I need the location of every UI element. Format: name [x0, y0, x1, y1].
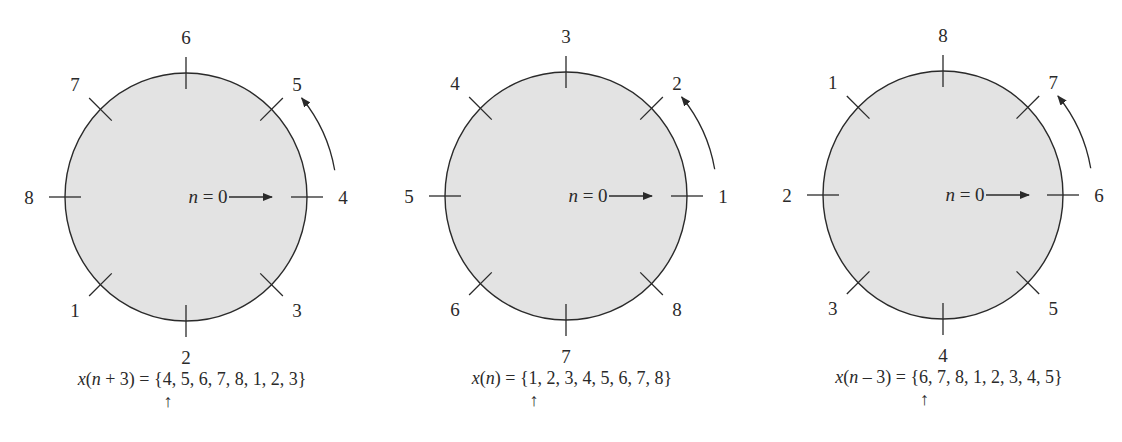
- rotation-arrow-icon: [1058, 96, 1091, 168]
- position-label: 4: [938, 345, 948, 366]
- circle-diagram-original: 12345678n = 0x(n) = {1, 2, 3, 4, 5, 6, 7…: [404, 26, 728, 410]
- circular-shift-diagram: 45678123n = 0x(n + 3) = {4, 5, 6, 7, 8, …: [0, 0, 1122, 442]
- position-label: 2: [672, 73, 682, 94]
- position-label: 6: [1094, 185, 1104, 206]
- position-label: 3: [828, 298, 838, 319]
- position-label: 4: [450, 73, 460, 94]
- position-label: 2: [181, 347, 191, 368]
- pointer-up-arrow-icon: ↑: [529, 390, 538, 410]
- sequence-equation: x(n + 3) = {4, 5, 6, 7, 8, 1, 2, 3}: [77, 369, 307, 390]
- position-label: 8: [938, 25, 948, 46]
- rotation-arrow-icon: [302, 98, 335, 170]
- position-label: 6: [450, 299, 460, 320]
- position-label: 6: [181, 27, 191, 48]
- n-zero-label: n = 0: [188, 186, 227, 207]
- position-label: 1: [828, 72, 838, 93]
- position-label: 1: [718, 186, 728, 207]
- n-zero-label: n = 0: [568, 185, 607, 206]
- position-label: 3: [292, 300, 302, 321]
- sequence-equation: x(n – 3) = {6, 7, 8, 1, 2, 3, 4, 5}: [834, 367, 1062, 388]
- n-zero-label: n = 0: [945, 184, 984, 205]
- position-label: 5: [292, 74, 302, 95]
- position-label: 1: [70, 300, 80, 321]
- position-label: 2: [782, 185, 792, 206]
- position-label: 7: [70, 74, 80, 95]
- circle-diagram-shift-plus-3: 45678123n = 0x(n + 3) = {4, 5, 6, 7, 8, …: [24, 27, 348, 411]
- position-label: 8: [672, 299, 682, 320]
- sequence-values: {6, 7, 8, 1, 2, 3, 4, 5}: [910, 367, 1062, 387]
- pointer-up-arrow-icon: ↑: [164, 391, 173, 411]
- rotation-arrow-icon: [682, 97, 715, 169]
- position-label: 7: [561, 346, 571, 367]
- position-label: 4: [338, 187, 348, 208]
- pointer-up-arrow-icon: ↑: [920, 389, 929, 409]
- position-label: 5: [1049, 298, 1059, 319]
- position-label: 3: [561, 26, 571, 47]
- position-label: 5: [404, 186, 414, 207]
- sequence-equation: x(n) = {1, 2, 3, 4, 5, 6, 7, 8}: [471, 368, 672, 389]
- position-label: 7: [1049, 72, 1059, 93]
- sequence-values: {4, 5, 6, 7, 8, 1, 2, 3}: [154, 369, 306, 389]
- circle-diagram-shift-minus-3: 67812345n = 0x(n – 3) = {6, 7, 8, 1, 2, …: [782, 25, 1104, 409]
- position-label: 8: [24, 187, 34, 208]
- sequence-values: {1, 2, 3, 4, 5, 6, 7, 8}: [520, 368, 672, 388]
